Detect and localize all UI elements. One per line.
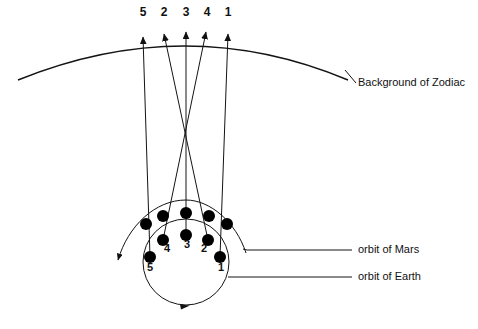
- earth-position-label-2: 2: [201, 243, 207, 254]
- mars-dot: [180, 207, 192, 219]
- mars-label-leader: [243, 249, 352, 250]
- zodiac-mark-label-5: 5: [140, 6, 147, 18]
- zodiac-mark-label-4: 4: [204, 6, 211, 18]
- zodiac-leader-line: [345, 70, 356, 83]
- mars-dot: [140, 218, 152, 230]
- earth-orbit-label: orbit of Earth: [358, 271, 421, 282]
- zodiac-mark-label-1: 1: [225, 6, 232, 18]
- mars-dot: [203, 210, 215, 222]
- zodiac-arc: [18, 46, 348, 80]
- mars-dot: [221, 218, 233, 230]
- mars-dot: [157, 210, 169, 222]
- earth-position-label-4: 4: [164, 243, 170, 254]
- earth-position-label-5: 5: [147, 262, 153, 273]
- earth-position-label-1: 1: [218, 262, 224, 273]
- zodiac-mark-label-3: 3: [183, 6, 190, 18]
- zodiac-mark-label-2: 2: [161, 6, 168, 18]
- zodiac-label: Background of Zodiac: [358, 77, 465, 88]
- retrograde-motion-diagram: 5 2 3 4 1 5 4 3 2 1 Background of Zodiac…: [0, 0, 478, 329]
- earth-position-label-3: 3: [184, 239, 190, 250]
- mars-orbit-label: orbit of Mars: [358, 244, 419, 255]
